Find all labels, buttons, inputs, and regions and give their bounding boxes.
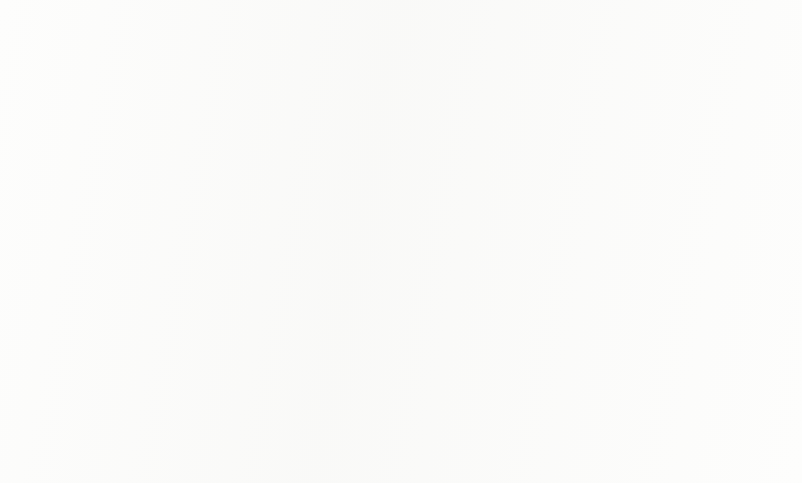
scatter-chart: 0123456789 02468101214 Videos Origamis <box>0 0 802 483</box>
gridline-horizontal <box>112 261 783 262</box>
x-axis-tick-label: 2 <box>202 386 213 406</box>
x-axis-title: Videos <box>112 425 783 449</box>
gridline-vertical <box>208 37 209 373</box>
gridline-horizontal <box>112 74 783 75</box>
x-axis-tick-label: 14 <box>772 386 794 406</box>
gridline-vertical <box>112 37 113 373</box>
x-axis-tick-labels: 02468101214 <box>112 386 783 412</box>
y-axis-tick-label: 0 <box>70 363 100 383</box>
y-axis-tick-label: 5 <box>70 176 100 196</box>
y-axis-tick-label: 1 <box>70 326 100 346</box>
gridline-horizontal <box>112 186 783 187</box>
x-axis-tick-label: 12 <box>676 386 698 406</box>
gridline-horizontal <box>112 336 783 337</box>
y-axis-tick-label: 7 <box>70 102 100 122</box>
data-point <box>535 216 551 232</box>
y-axis-tick-label: 9 <box>70 27 100 47</box>
y-axis-tick-label: 4 <box>70 214 100 234</box>
y-axis-tick-label: 8 <box>70 64 100 84</box>
gridline-vertical <box>687 37 688 373</box>
gridline-horizontal <box>112 224 783 225</box>
x-axis-tick-label: 8 <box>490 386 501 406</box>
gridline-vertical <box>783 37 784 373</box>
data-point <box>583 178 599 194</box>
data-point <box>344 253 360 269</box>
x-axis-tick-label: 0 <box>106 386 117 406</box>
data-point <box>679 141 695 157</box>
gridline-vertical <box>591 37 592 373</box>
y-axis-tick-label: 2 <box>70 288 100 308</box>
data-point <box>392 66 408 82</box>
gridline-horizontal <box>112 37 783 38</box>
y-axis-tick-label: 3 <box>70 251 100 271</box>
x-axis-tick-label: 6 <box>394 386 405 406</box>
data-point <box>440 141 456 157</box>
plot-area <box>112 37 783 373</box>
gridline-horizontal <box>112 373 783 374</box>
x-axis-tick-label: 10 <box>580 386 602 406</box>
y-axis-tick-labels: 0123456789 <box>62 37 100 373</box>
gridline-vertical <box>400 37 401 373</box>
gridline-horizontal <box>112 112 783 113</box>
gridline-horizontal <box>112 298 783 299</box>
gridline-vertical <box>495 37 496 373</box>
y-axis-title: Origamis <box>14 117 38 277</box>
y-axis-tick-label: 6 <box>70 139 100 159</box>
gridline-vertical <box>304 37 305 373</box>
x-axis-tick-label: 4 <box>298 386 309 406</box>
